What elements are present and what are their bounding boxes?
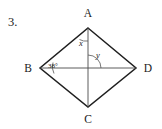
vertex-label-d: D — [144, 62, 152, 74]
angle-label-x: x — [78, 38, 83, 48]
angle-label-y: y — [95, 50, 100, 60]
vertex-label-a: A — [84, 7, 93, 19]
vertex-label-c: C — [84, 113, 92, 125]
rhombus-diagram: 3. A B C D 38° x y — [0, 0, 162, 129]
problem-number: 3. — [8, 15, 17, 29]
angle-label-38-degrees: 38° — [48, 62, 58, 70]
vertex-label-b: B — [24, 62, 32, 74]
geometry-problem-figure: 3. A B C D 38° x y — [0, 0, 162, 129]
